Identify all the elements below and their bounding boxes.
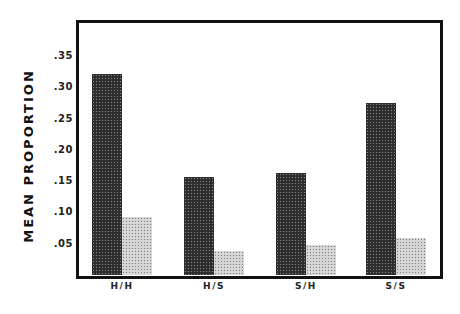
bar-h-h-dark — [92, 74, 122, 275]
bar-s-h-light — [306, 245, 336, 275]
bar-h-s-dark — [184, 177, 214, 275]
y-tick-label: .25 — [33, 113, 73, 124]
y-tick-label: .35 — [33, 50, 73, 61]
x-tick-label: S/S — [366, 281, 426, 291]
bar-s-h-dark — [276, 173, 306, 275]
y-tick-label: .05 — [33, 238, 73, 249]
x-tick-label: S/H — [276, 281, 336, 291]
bar-s-s-light — [396, 238, 426, 275]
y-tick-label: .30 — [33, 81, 73, 92]
bar-h-h-light — [122, 217, 152, 275]
x-tick-label: H/S — [184, 281, 244, 291]
y-tick-label: .15 — [33, 175, 73, 186]
y-tick-label: .10 — [33, 206, 73, 217]
bar-h-s-light — [214, 251, 244, 275]
y-tick-label: .20 — [33, 144, 73, 155]
x-tick-label: H/H — [92, 281, 152, 291]
bar-s-s-dark — [366, 103, 396, 275]
